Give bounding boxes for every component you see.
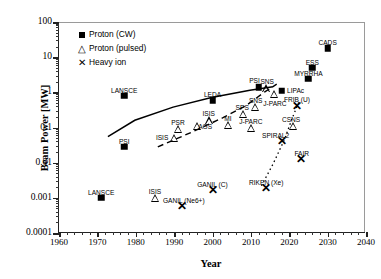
x-minor-tick — [274, 232, 275, 235]
x-minor-tick — [74, 232, 75, 235]
y-tick-label: 0.01 — [35, 158, 52, 168]
y-tick-label: 0.0001 — [26, 228, 52, 238]
y-minor-tick — [56, 63, 60, 64]
y-minor-tick — [56, 177, 60, 178]
x-minor-tick — [205, 232, 206, 235]
data-point-label: PSR — [171, 119, 185, 126]
y-minor-tick — [56, 152, 60, 153]
data-point-label: RIKEN (Xe) — [249, 179, 283, 186]
legend-label: Heavy ion — [89, 58, 126, 66]
filled-square-icon — [76, 32, 88, 38]
data-point-open-triangle — [224, 121, 232, 129]
x-tick-label: 1980 — [127, 238, 145, 247]
data-point-open-triangle — [170, 134, 178, 142]
y-minor-tick — [56, 61, 60, 62]
x-minor-tick — [113, 232, 114, 235]
data-point-label: SNS — [260, 78, 274, 85]
y-minor-tick — [56, 59, 60, 60]
data-point-label: GANIL (Ne6+) — [163, 197, 205, 204]
y-tick — [53, 163, 59, 165]
data-point-label: SNS — [249, 97, 263, 104]
y-minor-tick — [56, 24, 60, 25]
data-point-open-triangle — [205, 116, 213, 124]
legend-label: Proton (pulsed) — [89, 44, 146, 52]
data-point-open-triangle — [289, 122, 297, 130]
beam-power-chart: Beam Power [MW] Year 0.00010.0010.010.11… — [0, 0, 381, 279]
y-minor-tick — [56, 146, 60, 147]
y-minor-tick — [56, 76, 60, 77]
y-minor-tick — [56, 173, 60, 174]
x-minor-tick — [351, 232, 352, 235]
data-point-label: SPS — [236, 104, 249, 111]
y-minor-tick — [56, 129, 60, 130]
y-minor-tick — [56, 68, 60, 69]
y-minor-tick — [56, 216, 60, 217]
y-tick-label: 1 — [47, 88, 52, 98]
y-minor-tick — [56, 206, 60, 207]
data-point-label: CSNS — [282, 116, 300, 123]
x-minor-tick — [343, 232, 344, 235]
y-minor-tick — [56, 103, 60, 104]
y-minor-tick — [56, 106, 60, 107]
x-tick-label: 1970 — [88, 238, 106, 247]
x-tick-label: 2040 — [357, 238, 375, 247]
y-minor-tick — [56, 82, 60, 83]
y-minor-tick — [56, 100, 60, 101]
y-tick-label: 10 — [43, 52, 53, 62]
x-minor-tick — [166, 232, 167, 235]
y-minor-tick — [56, 133, 60, 134]
x-minor-tick — [151, 232, 152, 235]
data-point-label: LIPAc — [287, 87, 304, 94]
data-point-label: PSI — [119, 138, 130, 145]
y-minor-tick — [56, 25, 60, 26]
y-tick-label: 100 — [38, 17, 52, 27]
y-minor-tick — [56, 222, 60, 223]
data-point-label: PSI — [249, 77, 260, 84]
data-point-open-triangle — [151, 194, 159, 202]
data-point-label: ESS — [306, 59, 319, 66]
data-point-label: MYRRHA — [294, 70, 323, 77]
data-point-label: MI — [224, 115, 231, 122]
y-minor-tick — [56, 199, 60, 200]
y-minor-tick — [56, 30, 60, 31]
x-minor-tick — [335, 232, 336, 235]
y-minor-tick — [56, 98, 60, 99]
x-axis-title: Year — [201, 258, 222, 269]
x-minor-tick — [90, 232, 91, 235]
data-point-label: FAIR — [294, 150, 309, 157]
y-tick — [53, 128, 59, 130]
cross-x-icon: ✕ — [76, 58, 88, 68]
data-point-open-triangle — [251, 103, 259, 111]
y-minor-tick — [56, 201, 60, 202]
y-minor-tick — [56, 94, 60, 95]
data-point-open-triangle — [174, 125, 182, 133]
x-minor-tick — [259, 232, 260, 235]
y-minor-tick — [56, 208, 60, 209]
data-point-label: LEDA — [204, 91, 221, 98]
x-minor-tick — [197, 232, 198, 235]
data-point-label: LANSCE — [88, 189, 114, 196]
open-triangle-icon: △ — [76, 44, 88, 54]
x-minor-tick — [120, 232, 121, 235]
y-minor-tick — [56, 96, 60, 97]
data-point-label: CADS — [318, 39, 336, 46]
legend-item-proton-cw: Proton (CW) — [76, 28, 146, 41]
x-minor-tick — [282, 232, 283, 235]
x-minor-tick — [220, 232, 221, 235]
y-minor-tick — [56, 111, 60, 112]
data-point-label: FRIB (U) — [284, 96, 310, 103]
data-point-open-triangle — [239, 110, 247, 118]
data-point-filled-square — [278, 88, 285, 95]
x-minor-tick — [67, 232, 68, 235]
y-minor-tick — [56, 181, 60, 182]
x-minor-tick — [320, 232, 321, 235]
data-point-label: J-PARC — [239, 118, 262, 125]
y-minor-tick — [56, 212, 60, 213]
x-minor-tick — [312, 232, 313, 235]
legend-item-heavy-ion: ✕ Heavy ion — [76, 56, 146, 69]
x-tick-label: 2020 — [280, 238, 298, 247]
y-tick-label: 0.1 — [40, 123, 52, 133]
y-tick — [53, 57, 59, 59]
y-minor-tick — [56, 71, 60, 72]
x-minor-tick — [189, 232, 190, 235]
